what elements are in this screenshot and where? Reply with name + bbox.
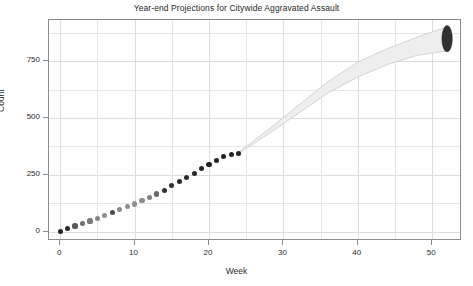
x-tick-mark — [134, 240, 135, 245]
plot-area — [48, 19, 461, 240]
data-point — [229, 152, 234, 157]
x-tick-mark — [208, 240, 209, 245]
x-tick-label: 50 — [416, 248, 446, 257]
x-tick-mark — [282, 240, 283, 245]
x-tick-mark — [357, 240, 358, 245]
data-point — [72, 223, 77, 228]
data-point — [206, 162, 211, 167]
x-tick-label: 0 — [44, 248, 74, 257]
y-axis-title: Count — [0, 89, 6, 112]
x-tick-mark — [431, 240, 432, 245]
data-point — [177, 179, 182, 184]
data-point — [132, 201, 137, 206]
x-tick-label: 30 — [267, 248, 297, 257]
y-tick-mark — [43, 231, 48, 232]
data-point — [95, 216, 100, 221]
data-point — [80, 221, 85, 226]
y-tick-label: 500 — [10, 112, 40, 121]
y-tick-mark — [43, 60, 48, 61]
x-axis-title: Week — [0, 266, 473, 276]
y-tick-label: 0 — [10, 226, 40, 235]
data-point — [162, 188, 167, 193]
y-tick-label: 750 — [10, 55, 40, 64]
chart-title: Year-end Projections for Citywide Aggrav… — [0, 3, 473, 13]
terminal-density-marker — [442, 26, 452, 52]
projection-band-area — [239, 27, 447, 154]
y-tick-label: 250 — [10, 169, 40, 178]
data-point — [87, 218, 92, 223]
x-tick-label: 20 — [193, 248, 223, 257]
x-tick-label: 10 — [119, 248, 149, 257]
data-point — [58, 229, 63, 234]
data-point — [214, 158, 219, 163]
y-tick-mark — [43, 117, 48, 118]
x-tick-label: 40 — [342, 248, 372, 257]
chart-container: Year-end Projections for Citywide Aggrav… — [0, 0, 473, 286]
projection-band-layer — [49, 20, 461, 240]
x-tick-mark — [59, 240, 60, 245]
data-point — [110, 210, 115, 215]
data-point — [192, 171, 197, 176]
y-tick-mark — [43, 174, 48, 175]
data-point — [184, 175, 189, 180]
